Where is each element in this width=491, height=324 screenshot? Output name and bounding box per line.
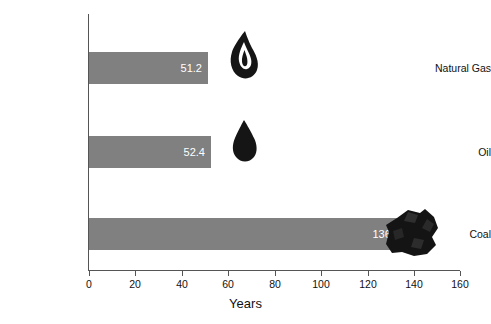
x-axis-line	[88, 270, 460, 271]
bar-oil: 52.4	[89, 136, 211, 168]
bar-value-oil: 52.4	[184, 146, 205, 158]
x-tick-label-20: 20	[129, 278, 141, 290]
x-tick-40	[182, 271, 183, 276]
x-tick-160	[460, 271, 461, 276]
oil-drop-icon	[229, 119, 259, 164]
x-tick-60	[228, 271, 229, 276]
x-tick-label-40: 40	[176, 278, 188, 290]
category-label-oil: Oil	[407, 146, 491, 158]
x-tick-label-0: 0	[86, 278, 92, 290]
x-tick-label-60: 60	[222, 278, 234, 290]
x-tick-80	[275, 271, 276, 276]
x-tick-120	[368, 271, 369, 276]
category-label-natural-gas: Natural Gas	[407, 62, 491, 74]
x-tick-100	[321, 271, 322, 276]
x-tick-label-140: 140	[405, 278, 423, 290]
x-tick-0	[89, 271, 90, 276]
x-tick-label-80: 80	[269, 278, 281, 290]
bar-value-natural-gas: 51.2	[181, 62, 202, 74]
bar-coal: 136.7	[89, 218, 406, 250]
x-tick-20	[135, 271, 136, 276]
x-tick-label-100: 100	[312, 278, 330, 290]
bar-natural-gas: 51.2	[89, 52, 208, 84]
x-axis-title: Years	[0, 296, 491, 311]
x-tick-label-160: 160	[451, 278, 469, 290]
bar-chart: Natural Gas Oil Coal 51.2 52.4 136.7	[0, 0, 491, 324]
flame-icon	[226, 30, 260, 82]
x-tick-140	[414, 271, 415, 276]
x-tick-label-120: 120	[359, 278, 377, 290]
coal-lumps-icon	[384, 206, 440, 258]
